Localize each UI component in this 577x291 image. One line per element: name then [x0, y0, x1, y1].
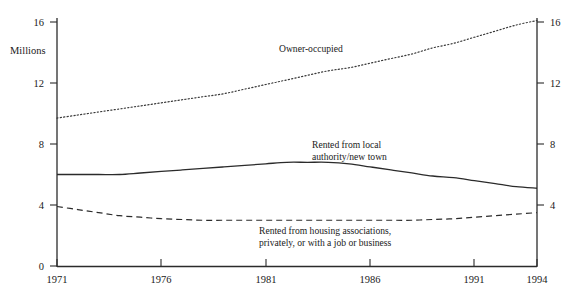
- series-line-0: [57, 20, 537, 118]
- y-axis-title: Millions: [10, 45, 46, 56]
- x-axis-ticks: [57, 259, 537, 266]
- x-label-1971: 1971: [47, 274, 68, 285]
- figure-container: 16 12 8 4 0 16 12 8 4 1971 1976 1981 198…: [0, 0, 577, 291]
- y-label-right-8: 8: [550, 139, 555, 150]
- series-annotation-local-authority: Rented from local authority/new town: [312, 139, 387, 162]
- y-label-left-8: 8: [39, 139, 44, 150]
- owner-occupied-label: Owner-occupied: [279, 43, 343, 54]
- local-authority-label-line2: authority/new town: [312, 151, 387, 162]
- series-line-1: [57, 162, 537, 188]
- x-label-1976: 1976: [151, 274, 172, 285]
- y-axis-right-labels: 16 12 8 4: [550, 17, 561, 211]
- y-label-right-16: 16: [550, 17, 561, 28]
- y-label-left-4: 4: [39, 200, 45, 211]
- line-chart: 16 12 8 4 0 16 12 8 4 1971 1976 1981 198…: [0, 0, 577, 291]
- housing-associations-label-line1: Rented from housing associations,: [259, 225, 391, 236]
- y-axis-left-ticks: [50, 22, 57, 266]
- x-axis-labels: 1971 1976 1981 1986 1991 1994: [47, 274, 549, 285]
- x-label-1994: 1994: [527, 274, 549, 285]
- y-label-left-16: 16: [34, 17, 45, 28]
- x-label-1986: 1986: [360, 274, 381, 285]
- series-line-2: [57, 207, 537, 221]
- series-annotation-owner-occupied: Owner-occupied: [279, 43, 343, 54]
- y-axis-right-ticks: [537, 22, 544, 205]
- x-label-1991: 1991: [464, 274, 485, 285]
- y-label-left-0: 0: [39, 261, 44, 272]
- housing-associations-label-line2: privately, or with a job or business: [259, 237, 392, 248]
- y-label-left-12: 12: [34, 78, 45, 89]
- series-annotation-housing-associations: Rented from housing associations, privat…: [259, 225, 392, 248]
- y-label-right-12: 12: [550, 78, 561, 89]
- x-label-1981: 1981: [256, 274, 277, 285]
- local-authority-label-line1: Rented from local: [312, 139, 382, 150]
- y-label-right-4: 4: [550, 200, 556, 211]
